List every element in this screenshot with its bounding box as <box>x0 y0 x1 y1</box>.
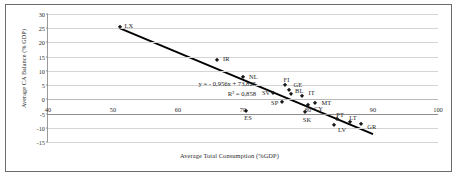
data-label-cy: CY <box>314 105 323 112</box>
y-tick-label: 20 <box>39 39 45 46</box>
data-label-bl: BL <box>295 87 303 94</box>
data-label-it: IT <box>309 89 315 96</box>
gridline-y <box>48 142 438 143</box>
x-tick-label: 40 <box>45 106 51 113</box>
data-label-sp: SP <box>271 99 278 106</box>
y-tick-mark <box>46 85 48 86</box>
y-tick-label: 0 <box>42 96 45 103</box>
x-axis-title: Average Total Consumption (%GDP) <box>6 152 453 159</box>
y-tick-mark <box>46 28 48 29</box>
y-tick-mark <box>46 56 48 57</box>
y-tick-mark <box>46 70 48 71</box>
regression-equation: y = - 0,956x + 73,825 <box>74 79 256 89</box>
y-tick-label: 25 <box>39 25 45 32</box>
gridline-y <box>48 14 438 15</box>
data-label-pt: PT <box>336 111 344 118</box>
y-tick-label: 10 <box>39 67 45 74</box>
data-label-es: ES <box>244 114 252 121</box>
data-label-sv: SV <box>262 89 270 96</box>
gridline-y <box>48 42 438 43</box>
plot-inner: 405060708090100LXIRNLFIGESVBLITSPMTCYESS… <box>48 14 438 142</box>
data-label-lv: LV <box>338 126 346 133</box>
chart-frame: Average CA Balance (% GDP) 4050607080901… <box>5 4 452 172</box>
gridline-y <box>48 99 438 100</box>
gridline-y <box>48 57 438 58</box>
y-tick-mark <box>46 14 48 15</box>
x-tick-label: 100 <box>433 106 442 113</box>
y-tick-mark <box>46 99 48 100</box>
y-tick-label: -10 <box>37 124 45 131</box>
y-tick-mark <box>46 113 48 114</box>
data-label-lt: LT <box>349 114 356 121</box>
regression-annotation: y = - 0,956x + 73,825 R² = 0,858 <box>74 79 256 98</box>
y-tick-label: -5 <box>40 110 45 117</box>
y-tick-label: 30 <box>39 11 45 18</box>
y-tick-mark <box>46 42 48 43</box>
y-tick-mark <box>46 142 48 143</box>
y-tick-mark <box>46 127 48 128</box>
y-tick-label: 5 <box>42 82 45 89</box>
data-label-ir: IR <box>223 55 230 62</box>
data-label-fi: FI <box>284 76 290 83</box>
data-label-gr: GR <box>367 123 376 130</box>
y-axis-title: Average CA Balance (% GDP) <box>20 14 27 124</box>
gridline-y <box>48 28 438 29</box>
y-tick-label: 15 <box>39 53 45 60</box>
x-tick-label: 90 <box>370 106 376 113</box>
x-tick-label: 50 <box>110 106 116 113</box>
gridline-y <box>48 71 438 72</box>
data-label-sk: SK <box>303 116 311 123</box>
gridline-y <box>48 128 438 129</box>
x-tick-label: 60 <box>175 106 181 113</box>
data-label-lx: LX <box>125 22 134 29</box>
plot-area: 405060708090100LXIRNLFIGESVBLITSPMTCYESS… <box>47 14 438 142</box>
y-tick-label: -15 <box>37 139 45 146</box>
r-squared-value: R² = 0,858 <box>74 89 256 99</box>
x-axis-line <box>48 114 438 115</box>
